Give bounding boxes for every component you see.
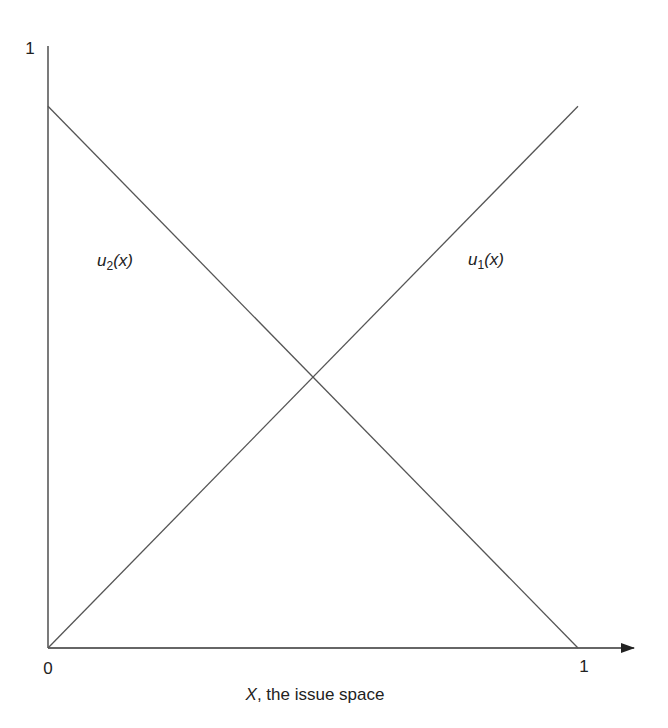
x-tick-label-1: 1 (579, 657, 588, 676)
utility-chart: 0 1 1 u2(x) u1(x) X, the issue space (0, 0, 668, 728)
x-tick-label-0: 0 (43, 659, 52, 678)
series-label-u2-arg: (x) (113, 251, 133, 270)
series-label-u1-arg: (x) (484, 250, 504, 269)
series-label-u1: u1(x) (468, 250, 504, 272)
series-label-u2: u2(x) (97, 251, 133, 273)
x-axis-title: X, the issue space (245, 685, 385, 704)
x-axis-title-variable: X (245, 685, 258, 704)
x-axis-title-text: , the issue space (257, 685, 385, 704)
y-tick-label-1: 1 (25, 39, 34, 58)
